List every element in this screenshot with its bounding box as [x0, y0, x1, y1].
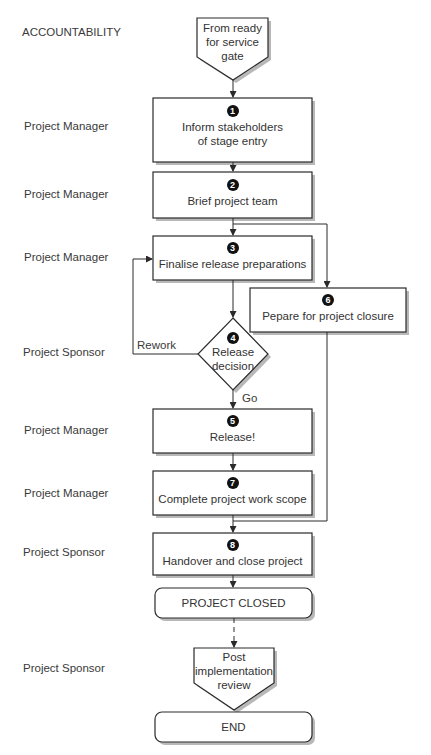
step-4: 4 Release decision [198, 330, 268, 373]
step-line: Release [198, 345, 268, 359]
accountability-header: ACCOUNTABILITY [22, 26, 121, 38]
accountability-step-1: Project Manager [24, 120, 108, 132]
go-label: Go [242, 392, 257, 404]
step-number-badge: 5 [227, 415, 239, 427]
post-review-text: Post implementation review [194, 650, 274, 692]
project-closed-text: PROJECT CLOSED [155, 596, 312, 610]
start-line: for service [197, 35, 268, 49]
accountability-step-4: Project Sponsor [23, 346, 105, 358]
accountability-post-review: Project Sponsor [23, 662, 105, 674]
step-line: Release! [153, 430, 312, 444]
step-line: Brief project team [153, 194, 312, 208]
accountability-step-8: Project Sponsor [23, 546, 105, 558]
step-2: 2 Brief project team [153, 177, 312, 208]
start-text: From ready for service gate [197, 21, 268, 63]
post-review-line: review [194, 678, 274, 692]
step-line: Inform stakeholders [153, 120, 312, 134]
end-text: END [155, 720, 312, 734]
post-review-line: Post [194, 650, 274, 664]
step-line: Finalise release preparations [153, 257, 312, 271]
step-6: 6 Pepare for project closure [250, 292, 406, 323]
step-line: decision [198, 359, 268, 373]
step-number-badge: 6 [322, 294, 334, 306]
step-1: 1 Inform stakeholders of stage entry [153, 103, 312, 148]
post-review-line: implementation [194, 664, 274, 678]
start-line: gate [197, 49, 268, 63]
start-line: From ready [197, 21, 268, 35]
step-7: 7 Complete project work scope [153, 475, 312, 506]
step-number-badge: 1 [227, 105, 239, 117]
step-number-badge: 4 [227, 332, 239, 344]
step-5: 5 Release! [153, 413, 312, 444]
step-number-badge: 7 [227, 477, 239, 489]
rework-label: Rework [137, 339, 176, 351]
step-number-badge: 2 [227, 179, 239, 191]
accountability-step-5: Project Manager [24, 424, 108, 436]
step-8: 8 Handover and close project [153, 537, 312, 568]
accountability-step-3: Project Manager [24, 251, 108, 263]
step-line: Handover and close project [153, 554, 312, 568]
step-line: Complete project work scope [153, 492, 312, 506]
step-number-badge: 8 [227, 539, 239, 551]
step-number-badge: 3 [227, 242, 239, 254]
step-line: Pepare for project closure [250, 309, 406, 323]
step-3: 3 Finalise release preparations [153, 240, 312, 271]
accountability-step-7: Project Manager [24, 487, 108, 499]
step-line: of stage entry [153, 134, 312, 148]
accountability-step-2: Project Manager [24, 188, 108, 200]
